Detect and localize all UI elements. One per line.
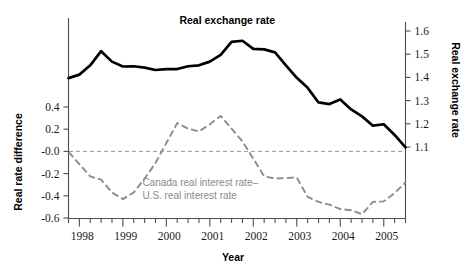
y-axis-right-tick-label: 1.2 — [415, 118, 430, 130]
y-axis-left-tick-label: -0.0 — [41, 145, 59, 157]
x-axis-tick-label: 2001 — [201, 230, 224, 242]
y-axis-left-tick-label: -0.2 — [41, 168, 59, 180]
y-axis-left-ticks: 0.40.2-0.0-0.2-0.4-0.6 — [41, 101, 68, 224]
y-axis-left-tick-label: 0.2 — [45, 123, 60, 135]
y-axis-right-title: Real exchange rate — [450, 42, 462, 138]
y-axis-right-tick-label: 1.1 — [415, 141, 430, 153]
x-axis-tick-label: 2003 — [288, 230, 311, 242]
annotation-exchange-rate-label: Real exchange rate — [179, 14, 275, 26]
x-axis-tick-label: 2000 — [158, 230, 181, 242]
y-axis-left-tick-label: -0.4 — [41, 190, 59, 202]
y-axis-left-title: Real rate difference — [12, 113, 24, 211]
x-axis-title: Year — [222, 251, 244, 263]
x-axis-ticks: 19981999200020012002200320042005 — [69, 219, 406, 243]
series-line-exchange-rate — [69, 41, 406, 148]
x-axis-tick-label: 1999 — [114, 230, 137, 242]
y-axis-right-tick-label: 1.3 — [415, 95, 430, 107]
chart-figure: 0.40.2-0.0-0.2-0.4-0.6 1.61.51.41.31.21.… — [0, 0, 467, 272]
series-line-rate-difference — [69, 116, 406, 214]
x-axis-tick-label: 1998 — [71, 230, 94, 242]
annotation-rate-difference-label-line1: Canada real interest rate– — [142, 177, 258, 188]
y-axis-right-tick-label: 1.4 — [415, 71, 430, 83]
chart-svg: 0.40.2-0.0-0.2-0.4-0.6 1.61.51.41.31.21.… — [0, 0, 467, 272]
annotation-rate-difference-label-line2: U.S. real interest rate — [142, 190, 237, 201]
x-axis-tick-label: 2002 — [245, 230, 268, 242]
x-axis-tick-label: 2004 — [332, 230, 355, 242]
plot-axes — [69, 18, 407, 219]
y-axis-left-tick-label: -0.6 — [41, 212, 59, 224]
x-axis-tick-label: 2005 — [375, 230, 398, 242]
y-axis-left-tick-label: 0.4 — [45, 101, 60, 113]
y-axis-right-tick-label: 1.5 — [415, 48, 430, 60]
y-axis-right-ticks: 1.61.51.41.31.21.1 — [406, 25, 430, 153]
y-axis-right-tick-label: 1.6 — [415, 25, 430, 37]
